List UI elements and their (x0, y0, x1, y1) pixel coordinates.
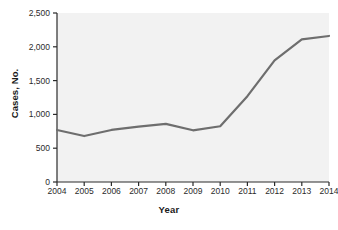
y-axis-title: Cases, No. (6, 0, 24, 186)
x-axis-tick-labels: 2004200520062007200820092010201120122013… (0, 186, 338, 202)
x-tick-label: 2008 (156, 186, 175, 196)
x-tick-label: 2006 (102, 186, 121, 196)
y-tick-label: 500 (20, 143, 50, 153)
x-tick-label: 2011 (238, 186, 256, 196)
x-tick-label: 2010 (211, 186, 230, 196)
y-axis-title-text: Cases, No. (10, 68, 21, 118)
x-tick-label: 2007 (129, 186, 148, 196)
line-chart: 05001,0001,5002,0002,500 200420052006200… (0, 0, 338, 230)
x-tick-label: 2005 (75, 186, 94, 196)
x-tick-label: 2013 (292, 186, 311, 196)
y-tick-label: 1,500 (20, 76, 50, 86)
plot-background (57, 13, 329, 182)
y-tick-label: 1,000 (20, 109, 50, 119)
x-tick-label: 2012 (265, 186, 284, 196)
x-tick-label: 2009 (184, 186, 203, 196)
y-tick-label: 2,000 (20, 42, 50, 52)
x-axis-title: Year (0, 204, 338, 215)
x-tick-label: 2014 (320, 186, 338, 196)
y-tick-label: 2,500 (20, 8, 50, 18)
x-axis-title-text: Year (159, 204, 180, 215)
x-tick-label: 2004 (48, 186, 67, 196)
